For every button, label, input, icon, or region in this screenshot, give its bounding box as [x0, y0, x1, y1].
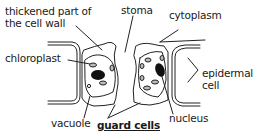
left-vacuole	[87, 84, 90, 87]
left-chloroplast	[90, 63, 97, 67]
chloroplast-leader	[68, 60, 90, 64]
left-chloroplast	[110, 65, 114, 71]
label-vacuole: vacuole	[51, 117, 90, 129]
right-chloroplast	[140, 76, 144, 81]
label-nucleus: nucleus	[169, 112, 208, 124]
label-chloroplast: chloroplast	[5, 52, 61, 64]
right-epidermal-cell-wall-inner	[175, 48, 200, 103]
right-chloroplast	[140, 64, 144, 69]
right-chloroplast	[160, 56, 164, 61]
left-chloroplast	[100, 81, 107, 85]
left-nucleus	[91, 70, 105, 80]
label-guard-cells: guard cells	[97, 119, 160, 131]
vacuole-leader	[84, 96, 90, 118]
label-epidermal-cell: cell	[202, 79, 219, 91]
epidermal-bracket	[188, 58, 198, 82]
right-epidermal-cell-wall-outer	[172, 45, 200, 106]
right-chloroplast	[145, 58, 151, 62]
label-thickened-wall: thickened part of	[5, 5, 91, 17]
label-epidermal: epidermal	[202, 67, 253, 79]
label-stoma: stoma	[121, 4, 153, 16]
stoma-leader	[125, 16, 133, 52]
right-chloroplast	[144, 86, 151, 90]
cytoplasm-leader-1	[160, 30, 178, 42]
label-cytoplasm: cytoplasm	[169, 9, 221, 21]
thickened-wall-leader	[76, 26, 102, 50]
guard-cells-leader-right	[108, 103, 140, 118]
right-chloroplast	[152, 80, 159, 84]
stoma-guard-cells-diagram: thickened part of the cell wall stoma cy…	[0, 0, 258, 132]
cytoplasm-leader-2	[160, 40, 205, 42]
label-thickened-wall-2: the cell wall	[5, 17, 65, 29]
